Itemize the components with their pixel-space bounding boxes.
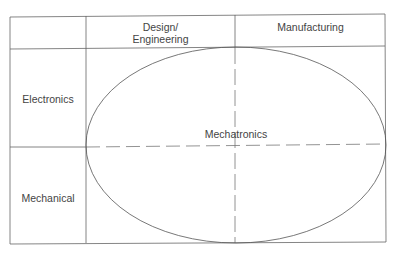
column-header-design-engineering: Design/ Engineering bbox=[86, 21, 235, 45]
row-divider-dashed bbox=[86, 144, 386, 147]
column-header-design-line1: Design/ bbox=[86, 21, 235, 33]
column-header-manufacturing: Manufacturing bbox=[235, 21, 386, 33]
center-label-mechatronics: Mechatronics bbox=[196, 128, 276, 140]
mechatronics-ellipse bbox=[86, 47, 386, 243]
column-header-design-line2: Engineering bbox=[86, 33, 235, 45]
row-label-electronics: Electronics bbox=[10, 93, 86, 105]
header-divider bbox=[10, 46, 385, 49]
row-label-mechanical: Mechanical bbox=[10, 192, 86, 204]
